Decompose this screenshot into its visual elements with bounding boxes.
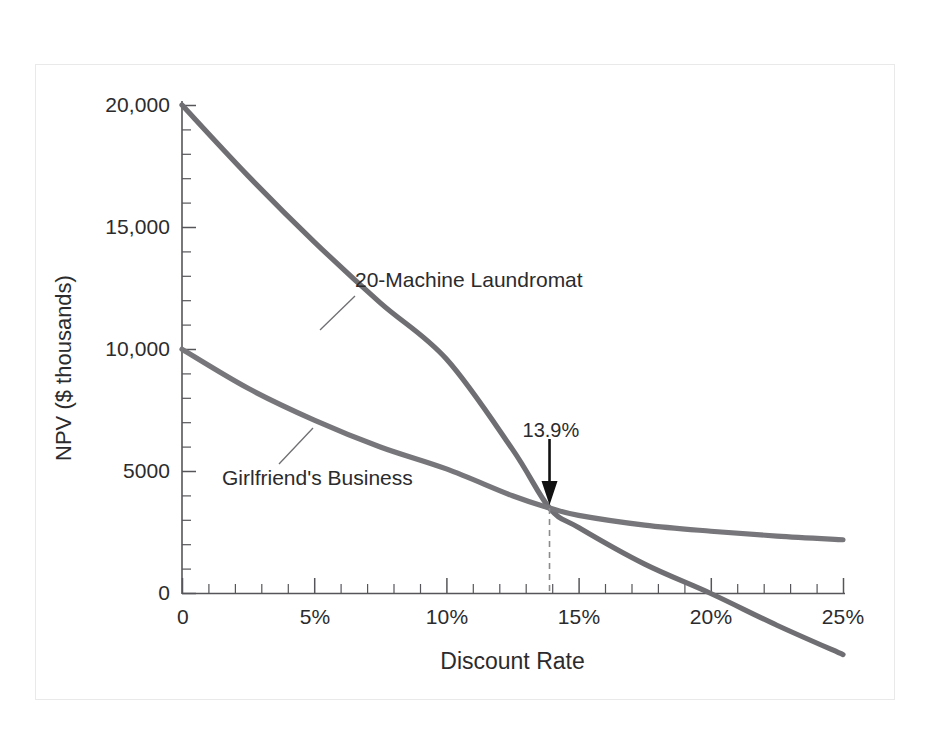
y-tick-label-15000: 15,000 xyxy=(30,215,170,239)
x-tick-label-15: 15% xyxy=(548,605,610,629)
x-tick-label-0: 0 xyxy=(152,605,214,629)
leader-line-laundromat xyxy=(320,296,355,330)
series-line-girlfriend xyxy=(182,349,843,540)
x-tick-label-5: 5% xyxy=(284,605,346,629)
crossover-arrow-icon xyxy=(542,439,558,505)
y-axis-title: NPV ($ thousands) xyxy=(51,238,77,498)
series-label-girlfriend: Girlfriend's Business xyxy=(222,466,413,490)
crossover-rate-label: 13.9% xyxy=(523,419,580,442)
series-line-laundromat xyxy=(182,105,843,655)
x-tick-label-10: 10% xyxy=(416,605,478,629)
npv-profile-figure: 20,000 15,000 10,000 5000 0 0 5% 10% 15%… xyxy=(0,0,927,742)
x-axis-title: Discount Rate xyxy=(182,648,843,675)
x-tick-label-20: 20% xyxy=(680,605,742,629)
x-tick-label-25: 25% xyxy=(812,605,874,629)
leader-line-girlfriend xyxy=(279,428,313,464)
x-axis xyxy=(182,578,845,594)
y-tick-label-0: 0 xyxy=(30,581,170,605)
series-label-laundromat: 20-Machine Laundromat xyxy=(355,268,583,292)
y-tick-label-20000: 20,000 xyxy=(30,93,170,117)
